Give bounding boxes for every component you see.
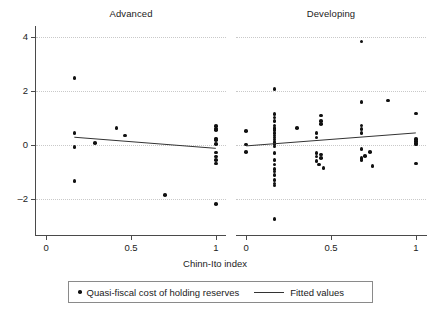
legend-dot-icon xyxy=(78,290,82,294)
legend-entry-fitted: Fitted values xyxy=(254,287,344,298)
x-tick-label: 0.5 xyxy=(315,242,347,253)
x-tick-mark xyxy=(246,236,247,240)
x-tick-mark xyxy=(216,236,217,240)
x-tick-mark xyxy=(131,236,132,240)
panel-advanced xyxy=(36,26,226,229)
y-tick-mark xyxy=(31,91,35,92)
legend-entry-points: Quasi-fiscal cost of holding reserves xyxy=(78,287,239,298)
chart-legend: Quasi-fiscal cost of holding reserves Fi… xyxy=(68,281,373,303)
x-tick-label: 0 xyxy=(230,242,262,253)
chart-figure: Advanced Developing 420–2 00.51 00.51 Ch… xyxy=(0,0,430,312)
y-tick-label: –2 xyxy=(4,193,28,204)
panel-title-developing: Developing xyxy=(236,8,426,19)
x-tick-mark xyxy=(416,236,417,240)
panel-developing xyxy=(236,26,426,229)
y-tick-mark xyxy=(31,145,35,146)
panel-title-advanced: Advanced xyxy=(36,8,226,19)
y-tick-mark xyxy=(31,37,35,38)
legend-line-icon xyxy=(254,292,284,293)
fitted-line xyxy=(36,26,226,229)
y-tick-label: 2 xyxy=(4,85,28,96)
x-tick-mark xyxy=(331,236,332,240)
y-tick-label: 0 xyxy=(4,139,28,150)
x-tick-mark xyxy=(46,236,47,240)
x-tick-label: 1 xyxy=(400,242,430,253)
fitted-line xyxy=(236,26,426,229)
legend-label-fitted: Fitted values xyxy=(290,287,344,298)
x-axis-title: Chinn-Ito index xyxy=(0,258,430,269)
y-tick-label: 4 xyxy=(4,31,28,42)
x-tick-label: 0.5 xyxy=(115,242,147,253)
x-tick-label: 0 xyxy=(30,242,62,253)
y-tick-mark xyxy=(31,199,35,200)
x-tick-label: 1 xyxy=(200,242,232,253)
legend-label-points: Quasi-fiscal cost of holding reserves xyxy=(87,287,240,298)
